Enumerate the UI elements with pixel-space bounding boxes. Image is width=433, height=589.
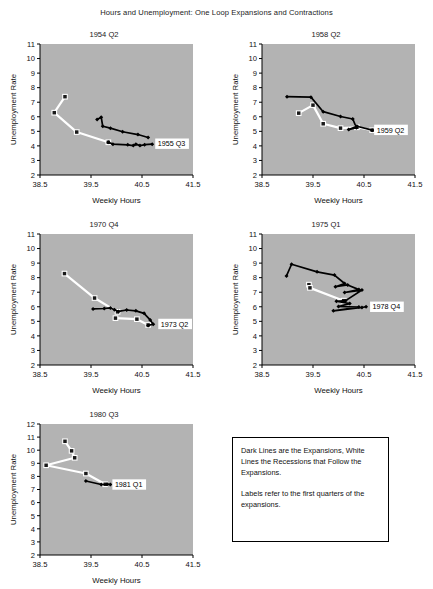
y-axis-tick-label: 6: [31, 113, 35, 122]
annotation-label: 1973 Q2: [161, 320, 189, 329]
y-axis-tick-label: 10: [27, 446, 35, 455]
y-axis-tick-label: 9: [253, 69, 257, 78]
y-axis-label: Unemployment Rate: [231, 74, 240, 145]
recession-marker: [63, 94, 68, 99]
x-axis-tick-label: 41.5: [186, 370, 201, 379]
recession-marker: [63, 439, 68, 444]
panel-1958-q2: 1958 Q223456789101138.539.540.541.5Weekl…: [228, 30, 424, 215]
y-axis-tick-label: 2: [253, 361, 257, 370]
y-axis-tick-label: 5: [31, 317, 35, 326]
y-axis-tick-label: 8: [31, 83, 35, 92]
y-axis-tick-label: 11: [27, 433, 35, 442]
panel-1970-q4: 1970 Q423456789101138.539.540.541.5Weekl…: [6, 220, 202, 405]
y-axis-tick-label: 3: [253, 156, 257, 165]
recession-marker: [135, 317, 140, 322]
plot-svg: 23456789101138.539.540.541.5Weekly Hours…: [6, 220, 202, 405]
y-axis-label: Unemployment Rate: [9, 454, 18, 525]
plot-svg: 23456789101138.539.540.541.5Weekly Hours…: [228, 30, 424, 215]
y-axis-tick-label: 5: [31, 127, 35, 136]
y-axis-tick-label: 4: [31, 142, 35, 151]
y-axis-tick-label: 6: [253, 113, 257, 122]
x-axis-tick-label: 39.5: [84, 370, 99, 379]
recession-marker: [52, 110, 57, 115]
recession-marker: [311, 103, 316, 108]
y-axis-tick-label: 2: [31, 171, 35, 180]
y-axis-tick-label: 11: [249, 40, 257, 49]
x-axis-tick-label: 40.5: [357, 370, 372, 379]
x-axis-tick-label: 41.5: [186, 560, 201, 569]
x-axis-tick-label: 40.5: [135, 370, 150, 379]
y-axis-tick-label: 7: [253, 98, 257, 107]
x-axis-tick-label: 38.5: [255, 180, 270, 189]
annotation-label: 1959 Q2: [377, 126, 405, 135]
x-axis-tick-label: 41.5: [186, 180, 201, 189]
y-axis-tick-label: 8: [31, 472, 35, 481]
recession-marker: [338, 126, 343, 131]
y-axis-tick-label: 8: [253, 83, 257, 92]
x-axis-tick-label: 39.5: [306, 370, 321, 379]
x-axis-label: Weekly Hours: [92, 386, 140, 395]
y-axis-tick-label: 9: [31, 69, 35, 78]
x-axis-tick-label: 38.5: [255, 370, 270, 379]
recession-marker: [72, 456, 77, 461]
recession-marker: [92, 296, 97, 301]
legend-paragraph-2: Labels refer to the first quarters of th…: [241, 488, 380, 510]
y-axis-tick-label: 3: [253, 346, 257, 355]
recession-marker: [308, 286, 313, 291]
y-axis-tick-label: 4: [253, 142, 257, 151]
panel-1980-q3: 1980 Q32345678910111238.539.540.541.5Wee…: [6, 410, 202, 589]
y-axis-tick-label: 3: [31, 156, 35, 165]
panel-1975-q1: 1975 Q123456789101138.539.540.541.5Weekl…: [228, 220, 424, 405]
recession-marker: [113, 316, 118, 321]
annotation-label: 1978 Q4: [373, 302, 401, 311]
y-axis-tick-label: 8: [253, 273, 257, 282]
y-axis-tick-label: 6: [253, 303, 257, 312]
x-axis-label: Weekly Hours: [92, 196, 140, 205]
plot-svg: 2345678910111238.539.540.541.5Weekly Hou…: [6, 410, 202, 589]
y-axis-tick-label: 10: [27, 54, 35, 63]
recession-marker: [44, 463, 49, 468]
recession-marker: [296, 111, 301, 116]
x-axis-tick-label: 41.5: [408, 180, 423, 189]
y-axis-tick-label: 6: [31, 498, 35, 507]
y-axis-tick-label: 2: [31, 361, 35, 370]
y-axis-tick-label: 8: [31, 273, 35, 282]
y-axis-tick-label: 2: [253, 171, 257, 180]
y-axis-tick-label: 9: [253, 259, 257, 268]
recession-marker: [84, 471, 89, 476]
x-axis-tick-label: 39.5: [306, 180, 321, 189]
y-axis-tick-label: 7: [31, 98, 35, 107]
y-axis-tick-label: 2: [31, 551, 35, 560]
y-axis-tick-label: 4: [31, 332, 35, 341]
plot-background: [40, 234, 193, 365]
y-axis-tick-label: 7: [31, 485, 35, 494]
legend-note-box: Dark Lines are the Expansions, White Lin…: [232, 437, 389, 542]
annotation-label: 1955 Q3: [158, 139, 186, 148]
y-axis-tick-label: 3: [31, 538, 35, 547]
recession-marker: [74, 130, 79, 135]
x-axis-label: Weekly Hours: [314, 196, 362, 205]
x-axis-tick-label: 41.5: [408, 370, 423, 379]
plot-svg: 23456789101138.539.540.541.5Weekly Hours…: [6, 30, 202, 215]
y-axis-tick-label: 10: [27, 244, 35, 253]
panel-1954-q2: 1954 Q223456789101138.539.540.541.5Weekl…: [6, 30, 202, 215]
plot-svg: 23456789101138.539.540.541.5Weekly Hours…: [228, 220, 424, 405]
x-axis-tick-label: 38.5: [33, 560, 48, 569]
annotation-label: 1981 Q1: [115, 480, 143, 489]
y-axis-tick-label: 7: [31, 288, 35, 297]
y-axis-tick-label: 5: [31, 512, 35, 521]
y-axis-tick-label: 12: [27, 420, 35, 429]
plot-background: [262, 44, 415, 175]
y-axis-tick-label: 4: [253, 332, 257, 341]
recession-marker: [62, 271, 67, 276]
x-axis-tick-label: 39.5: [84, 180, 99, 189]
x-axis-label: Weekly Hours: [92, 576, 140, 585]
y-axis-tick-label: 5: [253, 317, 257, 326]
x-axis-tick-label: 40.5: [357, 180, 372, 189]
y-axis-tick-label: 9: [31, 459, 35, 468]
y-axis-tick-label: 10: [249, 244, 257, 253]
x-axis-tick-label: 40.5: [135, 180, 150, 189]
y-axis-tick-label: 7: [253, 288, 257, 297]
legend-paragraph-1: Dark Lines are the Expansions, White Lin…: [241, 445, 380, 479]
x-axis-tick-label: 38.5: [33, 370, 48, 379]
